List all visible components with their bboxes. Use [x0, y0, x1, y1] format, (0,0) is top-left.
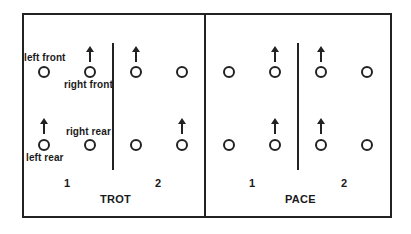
- pace1-left-front-hoof: [223, 66, 235, 78]
- pace-phase-divider: [297, 43, 299, 170]
- label-right-front: right front: [64, 79, 113, 90]
- trot-phase-2-label: 2: [155, 177, 161, 189]
- trot2-right-rear-hoof: [176, 139, 188, 151]
- label-left-rear: left rear: [26, 152, 64, 163]
- trot1-left-front-hoof: [38, 66, 50, 78]
- up-arrow-icon: [270, 46, 280, 62]
- up-arrow-icon: [85, 46, 95, 62]
- panel-divider: [204, 13, 206, 218]
- up-arrow-icon: [177, 118, 187, 134]
- pace2-left-rear-hoof: [315, 139, 327, 151]
- trot1-left-rear-hoof: [38, 139, 50, 151]
- trot-title: TROT: [100, 193, 131, 205]
- up-arrow-icon: [270, 118, 280, 134]
- up-arrow-icon: [316, 118, 326, 134]
- diagram-frame: [22, 13, 392, 218]
- label-right-rear: right rear: [66, 126, 111, 137]
- pace2-right-front-hoof: [361, 66, 373, 78]
- trot-phase-divider: [112, 43, 114, 170]
- pace-phase-1-label: 1: [249, 177, 255, 189]
- pace1-right-front-hoof: [269, 66, 281, 78]
- trot-phase-1-label: 1: [64, 177, 70, 189]
- pace2-right-rear-hoof: [361, 139, 373, 151]
- pace2-left-front-hoof: [315, 66, 327, 78]
- pace-phase-2-label: 2: [341, 177, 347, 189]
- label-left-front: left front: [24, 52, 66, 63]
- pace1-right-rear-hoof: [269, 139, 281, 151]
- up-arrow-icon: [131, 46, 141, 62]
- up-arrow-icon: [316, 46, 326, 62]
- pace1-left-rear-hoof: [223, 139, 235, 151]
- trot1-right-rear-hoof: [84, 139, 96, 151]
- pace-title: PACE: [285, 193, 316, 205]
- trot2-left-rear-hoof: [130, 139, 142, 151]
- up-arrow-icon: [39, 118, 49, 134]
- trot2-right-front-hoof: [176, 66, 188, 78]
- trot2-left-front-hoof: [130, 66, 142, 78]
- trot1-right-front-hoof: [84, 66, 96, 78]
